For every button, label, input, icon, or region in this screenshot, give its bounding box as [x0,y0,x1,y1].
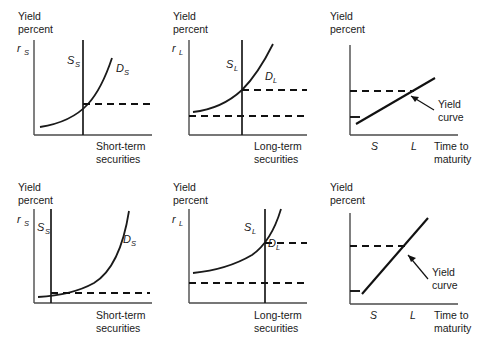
y-axis-variable: r [172,213,177,225]
x-tick-l: L [411,140,417,152]
y-axis-label-line1: Yield [330,181,353,193]
x-axis-label-line1: Time to [434,140,469,152]
x-axis-label-line1: Time to [434,309,469,321]
y-axis-label-line2: percent [173,23,208,35]
x-axis-label-line1: Short-term [96,309,146,321]
yield-curve [356,78,435,124]
x-axis-label-line2: securities [96,153,140,165]
demand-curve-label-subscript: L [273,76,277,85]
x-axis-label-line1: Short-term [96,140,146,152]
panel-top-right: Yield percent Yield curve S L Time to ma… [310,0,486,175]
yield-curve [362,218,428,294]
annotation-arrow-head [411,96,419,102]
demand-curve-label: D [268,237,276,249]
yield-curve-annotation-line2: curve [432,279,458,291]
demand-curve [193,44,273,112]
panel-top-middle: Yield percent r L S L D L Long-term secu… [155,0,320,175]
yield-curve-figure: Yield percent r S S S D S Short-term sec… [0,0,486,346]
supply-curve-label: S [37,221,45,233]
y-axis-label-line1: Yield [173,181,196,193]
y-axis-variable-subscript: S [24,219,29,228]
supply-curve-label-subscript: L [234,64,238,73]
y-axis-label-line1: Yield [18,10,41,22]
supply-curve-label: S [244,221,252,233]
demand-curve-label: D [265,70,273,82]
annotation-arrow-head [408,255,416,262]
x-tick-s: S [371,140,378,152]
y-axis-label-line2: percent [18,23,53,35]
panel-bottom-right: Yield percent Yield curve S L Time to ma… [310,173,486,346]
y-axis-label-line1: Yield [330,10,353,22]
demand-curve-label-subscript: S [131,239,136,248]
y-axis-label-line1: Yield [18,181,41,193]
yield-curve-annotation-line2: curve [438,111,464,123]
supply-curve-label: S [226,58,234,70]
supply-curve-label-subscript: S [45,227,50,236]
x-axis-label-line1: Long-term [254,140,302,152]
y-axis-label-line2: percent [330,23,365,35]
y-axis-variable-subscript: L [179,48,183,57]
x-axis-label-line2: securities [96,322,140,334]
demand-curve-label: D [123,233,131,245]
yield-curve-annotation-line1: Yield [438,98,461,110]
panel-bottom-left: Yield percent r S S S D S Short-term sec… [0,173,165,346]
supply-curve-label-subscript: L [252,227,256,236]
x-tick-s: S [370,309,377,321]
y-axis-label-line2: percent [173,194,208,206]
x-tick-l: L [410,309,416,321]
x-axis-label-line2: securities [254,153,298,165]
x-axis-label-line2: maturity [434,322,472,334]
x-axis-label-line2: maturity [434,153,472,165]
y-axis-variable: r [17,213,22,225]
y-axis-label-line2: percent [18,194,53,206]
panel-top-left: Yield percent r S S S D S Short-term sec… [0,0,165,175]
y-axis-label-line1: Yield [173,10,196,22]
demand-curve-label-subscript: L [276,243,280,252]
y-axis-variable-subscript: L [179,219,183,228]
panel-bottom-middle: Yield percent r L S L D L Long-term secu… [155,173,320,346]
supply-curve-label-subscript: S [75,60,80,69]
yield-curve-annotation-line1: Yield [432,266,455,278]
y-axis-variable: r [172,42,177,54]
x-axis-label-line2: securities [254,322,298,334]
y-axis-variable: r [17,42,22,54]
demand-curve-label: D [116,62,124,74]
supply-curve-label: S [67,54,75,66]
x-axis-label-line1: Long-term [254,309,302,321]
y-axis-label-line2: percent [330,194,365,206]
demand-curve-label-subscript: S [124,68,129,77]
y-axis-variable-subscript: S [24,48,29,57]
